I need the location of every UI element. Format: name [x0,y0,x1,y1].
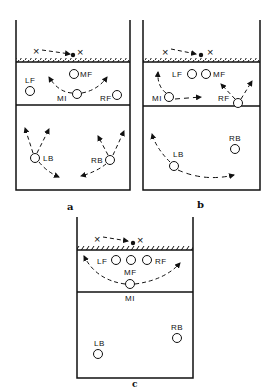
caption-c: c [132,379,138,389]
opponent-marker: × [77,46,84,58]
move-arrow [81,164,106,176]
player-lf [188,70,197,79]
move-arrow [152,134,170,162]
label-mi: MI [152,94,162,103]
ball [131,241,135,245]
pass-arrow [42,50,70,54]
opponent-marker: × [162,46,169,58]
move-arrow [82,77,107,93]
move-arrow [49,77,72,93]
label-lb: LB [173,150,184,159]
label-rb: RB [91,156,103,165]
player-rf [234,99,243,108]
caption-b: b [197,199,204,210]
label-mi: MI [125,294,135,303]
label-mi: MI [57,94,67,103]
label-rf: RF [155,257,167,266]
player-mi [165,93,174,102]
opponent-marker: × [94,233,101,245]
move-arrow [113,131,124,155]
player-lb [31,154,40,163]
player-rb [106,156,115,165]
net-hatch [16,58,130,62]
label-rf: RF [100,94,112,103]
move-arrow [98,136,108,155]
player-rf [113,91,122,100]
label-rb: RB [171,323,183,332]
player-mf [127,256,136,265]
player-mf [70,70,79,79]
pass-arrow [171,49,196,54]
opponent-marker: × [137,234,144,246]
move-arrow [37,129,49,153]
move-arrow [178,170,234,178]
label-rb: RB [229,134,241,143]
panel-b: × × LF MF MI RF RB LB b [143,20,260,210]
caption-a: a [67,201,74,212]
move-arrow [25,128,33,153]
label-lb: LB [43,154,54,163]
panel-a: × × MF LF MI RF LB RB a [16,20,130,212]
label-lf: LF [25,76,35,85]
label-rf: RF [218,94,230,103]
label-lb: LB [94,339,105,348]
move-arrow [135,263,180,284]
opponent-marker: × [33,45,40,57]
label-lf: LF [172,70,182,79]
move-arrow [39,162,59,177]
move-arrow [175,97,201,99]
player-mf [202,70,211,79]
opponent-marker: × [207,46,214,58]
move-arrow [241,81,252,99]
player-lb [170,162,179,171]
net-hatch [143,58,260,62]
net-hatch [77,246,193,250]
ball [199,53,203,57]
label-mf: MF [80,70,93,79]
ball [71,53,75,57]
panel-c: × × LF RF MF MI RB LB c [77,217,193,389]
player-rb [231,145,240,154]
label-lf: LF [97,257,107,266]
player-lf [26,87,35,96]
player-rb [173,334,182,343]
player-lf [112,256,121,265]
volleyball-formation-diagram: × × MF LF MI RF LB RB a × × [0,0,277,390]
player-mi [126,280,135,289]
pass-arrow [103,237,128,241]
player-lb [94,350,103,359]
label-mf: MF [124,268,137,277]
player-mi [73,90,82,99]
move-arrow [158,72,166,93]
player-rf [143,256,152,265]
label-mf: MF [213,70,226,79]
